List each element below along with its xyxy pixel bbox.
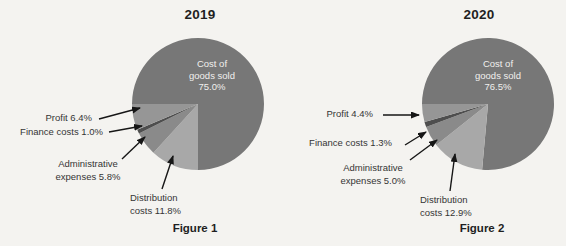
callout-finance-costs: Finance costs 1.3%: [283, 136, 392, 149]
callout-finance-costs: Finance costs 1.0%: [0, 125, 103, 138]
figure-2019: 2019 Cost of goods sold 75.0% Profit 6.4…: [0, 0, 283, 246]
callout-distribution-costs: Distribution costs 11.8%: [130, 191, 181, 217]
callout-administrative-expenses: Administrative expenses 5.0%: [323, 161, 423, 187]
callout-profit: Profit 4.4%: [283, 107, 373, 120]
figure-caption: Figure 2: [432, 222, 532, 234]
callout-profit: Profit 6.4%: [0, 111, 92, 124]
figure-caption: Figure 1: [145, 222, 245, 234]
slice-label-cost-of-goods-sold: Cost of goods sold 75.0%: [152, 58, 272, 93]
callout-arrow-icon: [405, 132, 426, 145]
callout-arrow-icon: [410, 140, 437, 160]
slice-label-cost-of-goods-sold: Cost of goods sold 76.5%: [438, 58, 558, 93]
callout-distribution-costs: Distribution costs 12.9%: [420, 193, 472, 219]
callout-arrow-icon: [122, 137, 145, 159]
callout-administrative-expenses: Administrative expenses 5.8%: [38, 157, 138, 183]
figure-2020: 2020 Cost of goods sold 76.5% Profit 4.4…: [283, 0, 566, 246]
